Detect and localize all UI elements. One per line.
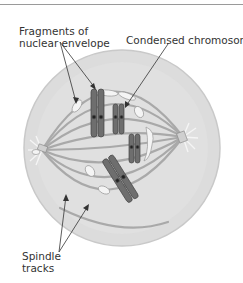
condensed-chromosome-label: Condensed chromosome (126, 34, 243, 46)
nuclear-envelope-label-line1: Fragments of (19, 25, 110, 37)
spindle-tracks-label: Spindle tracks (22, 250, 61, 274)
nuclear-envelope-label-line2: nuclear envelope (19, 37, 110, 49)
spindle-label-line2: tracks (22, 262, 61, 274)
spindle-label-line1: Spindle (22, 250, 61, 262)
nuclear-envelope-label: Fragments of nuclear envelope (19, 25, 110, 49)
